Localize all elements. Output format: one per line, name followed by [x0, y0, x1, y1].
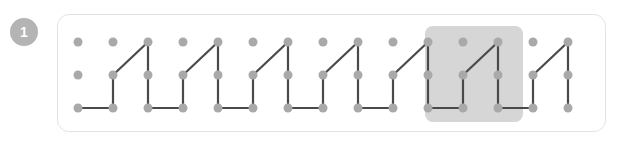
grid-dot	[319, 71, 328, 80]
grid-dot	[494, 104, 503, 113]
pattern-svg	[0, 0, 618, 146]
pattern-figure: 1	[0, 0, 618, 146]
grid-dot	[144, 38, 153, 47]
grid-dot	[249, 38, 258, 47]
grid-dot	[354, 71, 363, 80]
grid-dot	[459, 104, 468, 113]
grid-dot	[424, 71, 433, 80]
grid-dot	[144, 104, 153, 113]
grid-dot	[74, 104, 83, 113]
grid-dot	[74, 71, 83, 80]
grid-dot	[144, 71, 153, 80]
grid-dot	[109, 71, 118, 80]
grid-dot	[494, 71, 503, 80]
dot-grid-canvas	[0, 0, 618, 146]
grid-dot	[319, 104, 328, 113]
grid-dot	[389, 71, 398, 80]
grid-dot	[389, 104, 398, 113]
grid-dot	[389, 38, 398, 47]
grid-dot	[284, 71, 293, 80]
grid-dot	[284, 38, 293, 47]
grid-dot	[249, 71, 258, 80]
grid-dot	[459, 71, 468, 80]
grid-dot	[354, 104, 363, 113]
grid-dot	[529, 71, 538, 80]
grid-dot	[424, 38, 433, 47]
grid-dot	[564, 71, 573, 80]
grid-dot	[284, 104, 293, 113]
grid-dot	[249, 104, 258, 113]
grid-dot	[354, 38, 363, 47]
grid-dot	[214, 104, 223, 113]
grid-dot	[109, 104, 118, 113]
grid-dot	[109, 38, 118, 47]
grid-dot	[564, 104, 573, 113]
grid-dot	[214, 38, 223, 47]
grid-dot	[459, 38, 468, 47]
grid-dot	[179, 71, 188, 80]
grid-dot	[214, 71, 223, 80]
grid-dot	[529, 38, 538, 47]
grid-dot	[179, 38, 188, 47]
grid-dot	[179, 104, 188, 113]
grid-dot	[74, 38, 83, 47]
grid-dot	[424, 104, 433, 113]
grid-dot	[319, 38, 328, 47]
grid-dot	[564, 38, 573, 47]
grid-dot	[494, 38, 503, 47]
grid-dot	[529, 104, 538, 113]
